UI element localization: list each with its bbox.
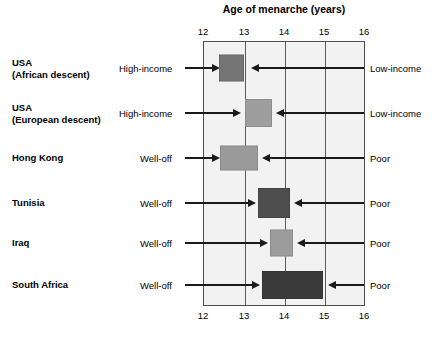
xtick-bottom-15: 15 — [319, 310, 330, 321]
gridline-15 — [325, 42, 326, 305]
right-arrow-line-6 — [336, 284, 364, 286]
left-annotation-hong-kong: Well-off — [140, 153, 172, 164]
left-annotation-usa-african: High-income — [119, 63, 172, 74]
left-arrow-head-6 — [252, 281, 260, 289]
xtick-top-15: 15 — [319, 26, 330, 37]
right-arrow-head-6 — [328, 281, 336, 289]
left-arrow-line-5 — [185, 242, 260, 244]
row-label-usa-european: USA (European descent) — [12, 102, 101, 125]
right-arrow-head-4 — [294, 199, 302, 207]
bar-south-africa — [262, 271, 323, 299]
left-annotation-usa-european: High-income — [119, 108, 172, 119]
row-label-tunisia: Tunisia — [12, 197, 45, 209]
right-annotation-hong-kong: Poor — [370, 153, 390, 164]
xtick-bottom-14: 14 — [279, 310, 290, 321]
bar-iraq — [270, 230, 293, 257]
left-arrow-line-6 — [185, 284, 252, 286]
row-label-line1: USA — [12, 57, 32, 68]
xtick-top-13: 13 — [239, 26, 250, 37]
row-label-line2: (African descent) — [12, 68, 90, 80]
right-annotation-usa-european: Low-income — [370, 108, 421, 119]
bar-hong-kong — [220, 146, 258, 171]
left-arrow-line-1 — [185, 67, 212, 69]
chart-title: Age of menarche (years) — [203, 3, 365, 15]
bar-tunisia — [258, 188, 290, 218]
right-arrow-head-3 — [262, 154, 270, 162]
right-annotation-usa-african: Low-income — [370, 63, 421, 74]
row-label-line1: USA — [12, 102, 32, 113]
bar-usa-african — [219, 55, 244, 82]
bar-usa-european — [245, 99, 272, 127]
left-arrow-head-2 — [233, 109, 241, 117]
right-annotation-iraq: Poor — [370, 238, 390, 249]
left-arrow-head-3 — [212, 154, 220, 162]
right-arrow-line-1 — [259, 67, 364, 69]
menarche-age-chart: Age of menarche (years) 12 13 14 15 16 1… — [0, 0, 439, 347]
xtick-top-16: 16 — [359, 26, 370, 37]
right-annotation-south-africa: Poor — [370, 280, 390, 291]
left-arrow-head-5 — [260, 239, 268, 247]
row-label-line1: South Africa — [12, 279, 68, 290]
left-arrow-line-3 — [185, 157, 212, 159]
xtick-top-12: 12 — [198, 26, 209, 37]
row-label-usa-african: USA (African descent) — [12, 57, 90, 80]
xtick-bottom-16: 16 — [359, 310, 370, 321]
left-arrow-head-4 — [248, 199, 256, 207]
row-label-line2: (European descent) — [12, 113, 101, 125]
gridline-13 — [245, 42, 246, 305]
xtick-top-14: 14 — [279, 26, 290, 37]
xtick-bottom-12: 12 — [198, 310, 209, 321]
row-label-line1: Tunisia — [12, 197, 45, 208]
right-arrow-head-2 — [276, 109, 284, 117]
gridline-14 — [285, 42, 286, 305]
left-annotation-iraq: Well-off — [140, 238, 172, 249]
right-arrow-line-2 — [284, 112, 364, 114]
left-arrow-line-2 — [185, 112, 233, 114]
right-arrow-head-1 — [251, 64, 259, 72]
row-label-line1: Iraq — [12, 237, 29, 248]
row-label-iraq: Iraq — [12, 237, 29, 249]
right-arrow-line-4 — [302, 202, 364, 204]
row-label-line1: Hong Kong — [12, 152, 63, 163]
left-annotation-tunisia: Well-off — [140, 198, 172, 209]
row-label-hong-kong: Hong Kong — [12, 152, 63, 164]
left-annotation-south-africa: Well-off — [140, 280, 172, 291]
row-label-south-africa: South Africa — [12, 279, 68, 291]
right-arrow-line-5 — [305, 242, 364, 244]
right-arrow-line-3 — [270, 157, 364, 159]
xtick-bottom-13: 13 — [239, 310, 250, 321]
right-arrow-head-5 — [297, 239, 305, 247]
right-annotation-tunisia: Poor — [370, 198, 390, 209]
left-arrow-line-4 — [185, 202, 248, 204]
